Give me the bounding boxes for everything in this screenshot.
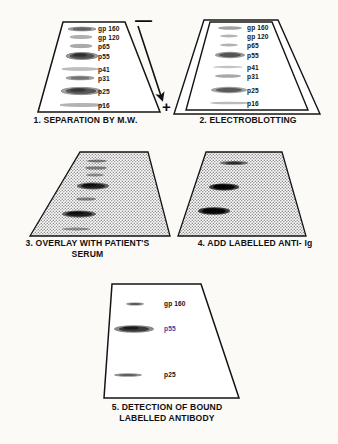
mw-label-p25: p25	[98, 88, 110, 95]
panel-5-caption: 5. DETECTION OF BOUND LABELLED ANTIBODY	[22, 402, 312, 423]
panel-2-caption: 2. ELECTROBLOTTING	[168, 115, 328, 126]
mw-label-p41: p41	[98, 66, 110, 73]
mw-label-gp120: gp 120	[247, 33, 269, 40]
mw-label-gp160: gp 160	[164, 300, 186, 307]
mw-label-p55: p55	[247, 52, 259, 59]
mw-label-p16: p16	[247, 100, 259, 107]
gel-slab-panel-5	[84, 278, 254, 406]
mw-label-p25: p25	[247, 87, 259, 94]
mw-label-p55: p55	[164, 325, 176, 332]
mw-label-p65: p65	[247, 42, 259, 49]
mw-label-p25: p25	[164, 371, 176, 378]
panel-add-labelled-anti-ig: 4. ADD LABELLED ANTI- Ig	[172, 146, 338, 268]
mw-label-gp120: gp 120	[98, 34, 120, 41]
mw-label-p65: p65	[98, 43, 110, 50]
panel-3-caption: 3. OVERLAY WITH PATIENT'S SERUM	[0, 238, 175, 259]
mw-label-p55: p55	[98, 53, 110, 60]
migration-arrow-line	[138, 26, 161, 96]
membrane-outline	[30, 152, 170, 236]
mw-label-p16: p16	[98, 102, 110, 109]
panel-4-caption: 4. ADD LABELLED ANTI- Ig	[172, 238, 338, 249]
negative-electrode-symbol: —	[135, 12, 152, 29]
mw-label-p31: p31	[98, 75, 110, 82]
panel-overlay-patient-serum: 3. OVERLAY WITH PATIENT'S SERUM	[0, 146, 175, 268]
gel-slab-panel-4	[172, 146, 338, 246]
mw-label-gp160: gp 160	[98, 25, 120, 32]
mw-label-gp160: gp 160	[247, 24, 269, 31]
panel-electroblotting: gp 160 gp 120 p65 p55 p41 p31 p25 p16 2.…	[168, 0, 338, 130]
panel-detection-bound-antibody: gp 160 p55 p25 5. DETECTION OF BOUND LAB…	[84, 278, 254, 444]
western-blot-figure: gp 160 gp 120 p65 p55 p41 p31 p25 p16 1.…	[0, 0, 338, 444]
gel-slab-panel-3	[0, 146, 175, 246]
mw-label-p41: p41	[247, 64, 259, 71]
mw-label-p31: p31	[247, 73, 259, 80]
